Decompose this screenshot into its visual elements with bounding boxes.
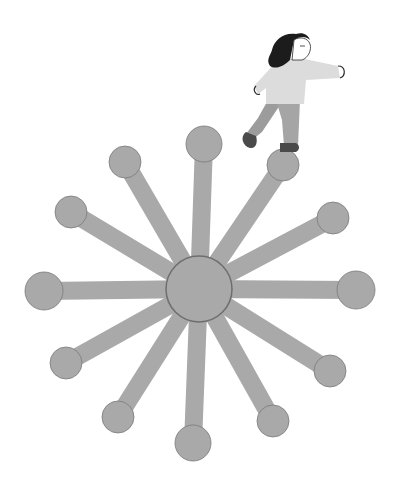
front-leg bbox=[276, 100, 300, 146]
network-node-10 bbox=[25, 272, 63, 310]
network-illustration bbox=[0, 0, 403, 489]
network-node-11 bbox=[55, 196, 87, 228]
front-shoe-icon bbox=[280, 143, 299, 152]
face bbox=[292, 38, 311, 60]
network-node-7 bbox=[175, 425, 211, 461]
network-node-5 bbox=[314, 355, 346, 387]
illustration-canvas bbox=[0, 0, 403, 489]
back-leg bbox=[246, 100, 282, 140]
sweater bbox=[254, 58, 340, 104]
network-node-8 bbox=[102, 401, 134, 433]
network-hub bbox=[166, 256, 232, 322]
network-node-2 bbox=[267, 149, 299, 181]
network-node-6 bbox=[257, 405, 289, 437]
network-node-4 bbox=[337, 271, 375, 309]
walking-woman-figure bbox=[243, 33, 345, 152]
network-node-9 bbox=[50, 347, 82, 379]
network-node-3 bbox=[317, 202, 349, 234]
network-node-12 bbox=[109, 146, 141, 178]
network-node-1 bbox=[186, 126, 222, 162]
